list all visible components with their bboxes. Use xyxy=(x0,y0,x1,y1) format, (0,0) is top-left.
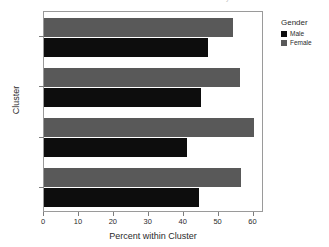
x-tick-mark xyxy=(43,212,44,216)
bar-male-overall xyxy=(44,188,199,207)
x-tick-mark xyxy=(148,212,149,216)
chart-title-text: Percent within Cluster by Gender xyxy=(152,0,255,1)
bar-male-2 xyxy=(44,88,201,107)
plot-area xyxy=(43,11,263,212)
y-tick-mark xyxy=(39,36,44,37)
bar-male-1 xyxy=(44,38,208,57)
x-tick-mark xyxy=(113,212,114,216)
legend-entries: MaleFemale xyxy=(281,30,312,46)
x-tick-label: 60 xyxy=(248,217,256,226)
bar-female-2 xyxy=(44,68,240,87)
bar-female-3 xyxy=(44,118,254,137)
y-tick-mark xyxy=(39,187,44,188)
x-tick-mark xyxy=(253,212,254,216)
legend-label: Female xyxy=(290,39,312,46)
x-tick-label: 50 xyxy=(213,217,221,226)
x-tick-label: 30 xyxy=(144,217,152,226)
legend-item-female: Female xyxy=(281,39,312,46)
legend-swatch-icon xyxy=(281,40,287,46)
legend-item-male: Male xyxy=(281,30,312,37)
bar-male-3 xyxy=(44,138,187,157)
x-axis-title: Percent within Cluster xyxy=(43,231,263,241)
x-tick-label: 20 xyxy=(109,217,117,226)
bars-layer xyxy=(44,12,262,211)
legend: Gender MaleFemale xyxy=(281,18,312,48)
x-tick-label: 0 xyxy=(41,217,45,226)
y-axis-title: Cluster xyxy=(11,60,21,140)
x-tick-mark xyxy=(218,212,219,216)
bar-female-overall xyxy=(44,168,241,187)
x-tick-label: 40 xyxy=(179,217,187,226)
y-tick-mark xyxy=(39,86,44,87)
legend-swatch-icon xyxy=(281,31,287,37)
legend-label: Male xyxy=(290,30,304,37)
x-tick-label: 10 xyxy=(74,217,82,226)
bar-female-1 xyxy=(44,18,233,37)
x-tick-mark xyxy=(183,212,184,216)
legend-title: Gender xyxy=(281,18,312,27)
bar-chart: Percent within Cluster by Gender 123Over… xyxy=(0,0,329,247)
y-tick-mark xyxy=(39,137,44,138)
x-tick-mark xyxy=(78,212,79,216)
chart-title-cropped: Percent within Cluster by Gender xyxy=(0,0,329,5)
